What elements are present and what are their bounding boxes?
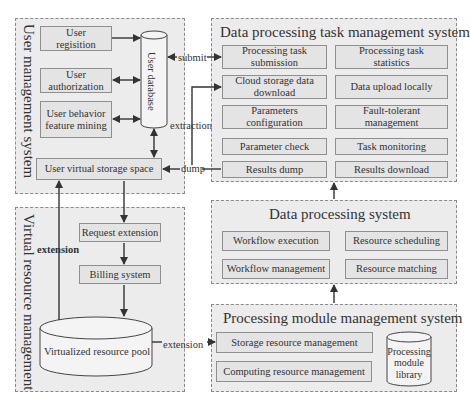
user-virtual-storage-box: User virtual storage space	[36, 158, 162, 180]
dump-label: dump	[181, 163, 205, 174]
results-dump-box: Results dump	[222, 161, 327, 178]
extension-right-label: extension	[163, 339, 203, 350]
processing-task-submission-box: Processing task submission	[222, 45, 327, 69]
parameter-check-box: Parameter check	[222, 138, 327, 155]
virtualized-resource-pool-label: Virtualized resource pool	[44, 346, 150, 357]
workflow-management-box: Workflow management	[222, 259, 330, 279]
user-behavior-box: User behavior feature mining	[40, 101, 112, 138]
parameters-configuration-box: Parameters configuration	[222, 105, 327, 129]
user-registration-box: User regisition	[40, 26, 112, 51]
data-processing-title: Data processing system	[269, 206, 411, 223]
task-monitoring-box: Task monitoring	[335, 138, 448, 155]
user-database-label: User database	[146, 52, 157, 111]
resource-matching-box: Resource matching	[345, 259, 448, 279]
virtual-resource-title: Virtual resource management	[20, 214, 37, 391]
cloud-storage-download-box: Cloud storage data download	[222, 75, 327, 99]
task-management-title: Data processing task management system	[220, 24, 470, 41]
task-management-panel	[211, 18, 457, 182]
user-management-title: User management system	[20, 24, 37, 178]
submit-label: submit	[178, 52, 207, 63]
workflow-execution-box: Workflow execution	[222, 231, 330, 251]
extension-left-label: extension	[37, 244, 79, 255]
data-upload-locally-box: Data upload locally	[335, 75, 448, 99]
fault-tolerant-management-box: Fault-tolerant management	[335, 105, 448, 129]
resource-scheduling-box: Resource scheduling	[345, 231, 448, 251]
results-download-box: Results download	[335, 161, 448, 178]
request-extension-box: Request extension	[79, 223, 161, 242]
extraction-label: extraction	[170, 120, 212, 131]
module-management-title: Processing module management system	[223, 310, 463, 327]
storage-resource-management-box: Storage resource management	[216, 332, 373, 353]
processing-module-library-label: Processing module library	[388, 344, 430, 382]
computing-resource-management-box: Computing resource management	[216, 361, 372, 382]
processing-task-statistics-box: Processing task statistics	[335, 45, 448, 69]
user-authorization-box: User authorization	[40, 68, 112, 93]
billing-system-box: Billing system	[79, 265, 161, 284]
